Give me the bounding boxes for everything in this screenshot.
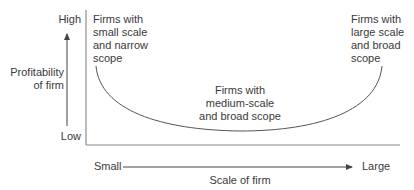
annotation-right-line: large scale xyxy=(351,26,404,39)
annotation-left-line: small scale xyxy=(93,26,148,39)
y-axis-low-label: Low xyxy=(55,130,81,143)
annotation-right-line: scope xyxy=(351,52,404,65)
y-axis-title: Profitability of firm xyxy=(0,66,64,92)
x-axis-large-label: Large xyxy=(362,160,390,173)
annotation-middle: Firms with medium-scale and broad scope xyxy=(185,84,295,123)
annotation-left: Firms with small scale and narrow scope xyxy=(93,13,148,65)
annotation-left-line: Firms with xyxy=(93,13,148,26)
annotation-right-line: Firms with xyxy=(351,13,404,26)
annotation-right-line: and broad xyxy=(351,39,404,52)
annotation-middle-line: and broad scope xyxy=(185,110,295,123)
annotation-left-line: scope xyxy=(93,52,148,65)
x-axis-small-label: Small xyxy=(94,160,122,173)
x-axis-title: Scale of firm xyxy=(190,174,290,187)
annotation-middle-line: Firms with xyxy=(185,84,295,97)
annotation-right: Firms with large scale and broad scope xyxy=(351,13,404,65)
annotation-left-line: and narrow xyxy=(93,39,148,52)
annotation-middle-line: medium-scale xyxy=(185,97,295,110)
y-axis-high-label: High xyxy=(55,13,81,26)
y-axis-title-line-2: of firm xyxy=(0,79,64,92)
y-axis-title-line-1: Profitability xyxy=(0,66,64,79)
